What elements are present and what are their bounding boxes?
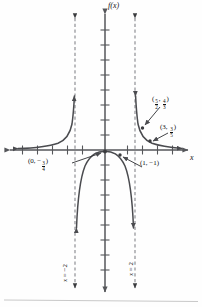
- paren-close-c: ): [46, 157, 48, 165]
- curve-left-branch: [18, 96, 74, 149]
- paren-close-b: ): [174, 123, 176, 131]
- comma-c: ,: [34, 157, 36, 165]
- dot-point-a: [141, 126, 144, 129]
- asymptote-label-left: x = −2: [62, 264, 69, 282]
- asym-right-eq: =: [127, 267, 135, 271]
- footer-rule: [4, 300, 198, 302]
- leader-point-c: [72, 153, 101, 163]
- dot-point-c: [103, 150, 107, 154]
- point-label-d: (1, −1): [140, 160, 159, 167]
- math-graph-figure: f(x) x (52, 43) (3, 35) (0, −34) (1, −1)…: [0, 0, 202, 307]
- paren-close-a: ): [167, 95, 169, 103]
- asym-left-eq: =: [61, 273, 69, 277]
- graph-canvas: [0, 0, 202, 307]
- minus-sign-c: −: [37, 157, 41, 165]
- dot-point-b: [148, 139, 151, 142]
- asym-left-var: x: [61, 279, 69, 282]
- comma-a: ,: [159, 95, 161, 103]
- fraction-y-b: 35: [170, 127, 173, 138]
- comma-b: ,: [166, 123, 168, 131]
- point-label-a: (52, 43): [152, 96, 169, 111]
- fraction-x-a: 52: [155, 99, 158, 110]
- asym-left-val: −2: [61, 264, 69, 271]
- x-axis-label: x: [190, 154, 194, 162]
- fraction-y-a: 43: [163, 99, 166, 110]
- y-axis-label: f(x): [108, 2, 119, 10]
- point-label-b: (3, 35): [160, 124, 176, 139]
- asym-right-var: x: [127, 273, 135, 276]
- dot-point-d: [118, 153, 121, 156]
- asym-right-val: 2: [127, 262, 135, 266]
- fraction-y-c: 34: [42, 161, 45, 172]
- point-label-c: (0, −34): [28, 158, 48, 173]
- asymptote-label-right: x = 2: [128, 262, 135, 276]
